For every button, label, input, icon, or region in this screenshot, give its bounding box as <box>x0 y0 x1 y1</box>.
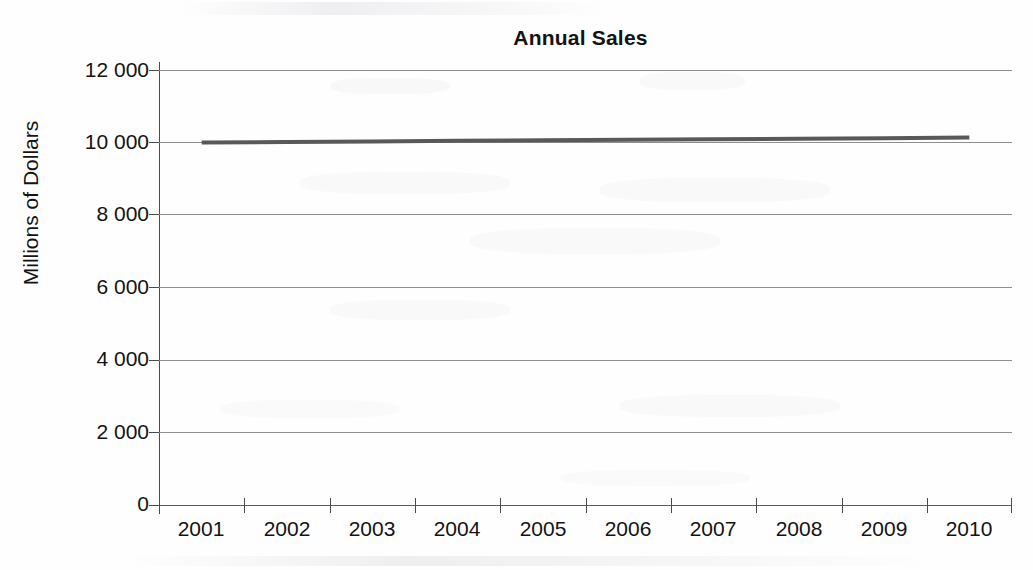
x-tick-mark <box>756 498 757 513</box>
x-tick-label: 2007 <box>670 517 756 541</box>
gridline-8000 <box>159 214 1012 215</box>
y-tick-mark <box>149 505 159 506</box>
x-tick-label: 2004 <box>414 517 500 541</box>
x-tick-mark <box>415 498 416 513</box>
gridline-4000 <box>159 360 1012 361</box>
x-tick-label: 2001 <box>158 517 244 541</box>
y-tick-label: 6 000 <box>39 275 149 299</box>
x-tick-mark <box>671 498 672 513</box>
chart-title: Annual Sales <box>0 26 1033 50</box>
gridline-6000 <box>159 287 1012 288</box>
chart-title-text: Annual Sales <box>513 26 647 50</box>
x-tick-mark <box>1011 498 1012 513</box>
gridline-12000 <box>159 70 1012 71</box>
annual-sales-figure: Annual Sales Millions of Dollars 12 000 … <box>0 0 1033 570</box>
y-tick-mark <box>149 142 159 143</box>
x-tick-label: 2010 <box>926 517 1012 541</box>
x-tick-mark <box>244 498 245 513</box>
scan-artifact <box>180 2 610 15</box>
x-tick-label: 2003 <box>329 517 415 541</box>
x-tick-mark <box>330 498 331 513</box>
y-tick-mark <box>149 70 159 71</box>
y-tick-label: 10 000 <box>39 130 149 154</box>
x-tick-mark <box>586 498 587 513</box>
x-tick-label: 2002 <box>244 517 330 541</box>
gridline-2000 <box>159 432 1012 433</box>
scan-artifact <box>120 556 940 566</box>
plot-area <box>159 70 1012 505</box>
y-tick-mark <box>149 432 159 433</box>
gridline-10000 <box>159 142 1012 143</box>
y-tick-label: 12 000 <box>39 58 149 82</box>
y-tick-label: 2 000 <box>39 420 149 444</box>
x-tick-label: 2008 <box>756 517 842 541</box>
x-tick-label: 2006 <box>585 517 671 541</box>
y-tick-label: 0 <box>39 492 149 516</box>
x-tick-mark <box>842 498 843 513</box>
y-tick-label: 8 000 <box>39 202 149 226</box>
x-tick-label: 2009 <box>841 517 927 541</box>
y-tick-mark <box>149 214 159 215</box>
y-tick-mark <box>149 287 159 288</box>
y-tick-mark <box>149 360 159 361</box>
x-tick-label: 2005 <box>500 517 586 541</box>
x-tick-mark <box>500 498 501 513</box>
x-tick-mark <box>159 480 160 513</box>
x-tick-mark <box>927 498 928 513</box>
y-tick-label: 4 000 <box>39 347 149 371</box>
